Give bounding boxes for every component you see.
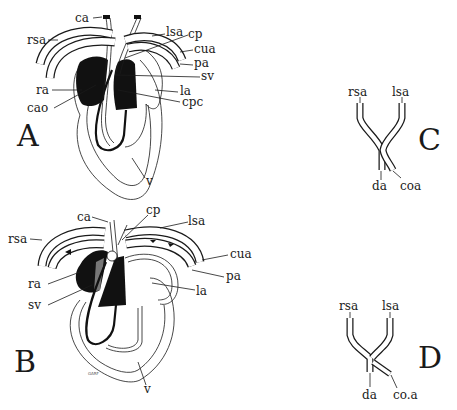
label-b-lsa: lsa bbox=[188, 214, 205, 228]
panel-letter-a: A bbox=[16, 118, 39, 153]
leader-b-ca bbox=[92, 217, 108, 222]
label-b-v: v bbox=[143, 382, 151, 396]
panel-letter-b: B bbox=[14, 344, 36, 379]
leader-c-coa bbox=[393, 171, 401, 178]
panel-b-u-tube-2 bbox=[106, 306, 142, 352]
leader-b-ra bbox=[48, 272, 80, 284]
label-d-coa: co.a bbox=[393, 388, 418, 402]
label-c-da: da bbox=[372, 179, 387, 193]
panel-a-cao bbox=[125, 104, 146, 147]
panel-a-ca-cap-right bbox=[103, 15, 110, 19]
label-a-lsa: lsa bbox=[166, 25, 183, 39]
leader-b-sv bbox=[48, 285, 92, 305]
label-c-coa: coa bbox=[400, 179, 421, 193]
panel-b-valve bbox=[107, 251, 117, 261]
label-d-rsa: rsa bbox=[339, 299, 358, 313]
panel-b-ventricle-inner bbox=[79, 302, 165, 372]
label-a-ra: ra bbox=[36, 83, 49, 97]
label-b-ca: ca bbox=[77, 210, 91, 224]
panel-d: rsa lsa da co.a D bbox=[339, 299, 442, 402]
label-c-rsa: rsa bbox=[348, 85, 367, 99]
label-a-rsa: rsa bbox=[27, 33, 46, 47]
panel-letter-c: C bbox=[418, 122, 441, 157]
artist-signature: GARF bbox=[88, 371, 100, 376]
label-a-v: v bbox=[145, 174, 153, 188]
leader-d-coa bbox=[391, 375, 397, 388]
panel-b: ca cp lsa rsa cua pa ra la sv v GARF B bbox=[8, 203, 252, 396]
panel-b-la-outline-inner bbox=[128, 259, 172, 300]
leader-b-la bbox=[152, 283, 195, 290]
label-d-lsa: lsa bbox=[382, 299, 399, 313]
label-b-cp: cp bbox=[146, 203, 161, 217]
leader-a-ca bbox=[93, 17, 102, 18]
label-a-cao: cao bbox=[27, 101, 48, 115]
leader-b-rsa bbox=[30, 239, 42, 240]
leader-a-v bbox=[132, 158, 145, 178]
panel-a: ca rsa lsa cp cua pa sv ra la cao cpc v … bbox=[16, 11, 216, 199]
panel-a-ca-cap-left bbox=[134, 15, 141, 19]
leader-b-pa bbox=[192, 270, 224, 277]
panel-letter-d: D bbox=[418, 340, 442, 375]
label-a-ca: ca bbox=[75, 11, 89, 25]
leader-a-pa bbox=[180, 64, 193, 65]
label-d-da: da bbox=[362, 388, 377, 402]
leader-b-cua bbox=[202, 255, 228, 260]
label-b-la: la bbox=[196, 284, 207, 298]
label-a-cpc: cpc bbox=[182, 95, 203, 109]
leader-b-lsa bbox=[160, 222, 188, 228]
label-a-pa: pa bbox=[194, 56, 209, 70]
label-a-sv: sv bbox=[201, 69, 214, 83]
label-b-sv: sv bbox=[28, 298, 41, 312]
label-b-pa: pa bbox=[226, 269, 241, 283]
label-b-rsa: rsa bbox=[8, 232, 27, 246]
panel-b-la-outline bbox=[125, 254, 178, 304]
label-b-cua: cua bbox=[230, 247, 252, 261]
panel-c: rsa lsa da coa C bbox=[348, 85, 441, 193]
label-a-cua: cua bbox=[194, 42, 216, 56]
label-b-ra: ra bbox=[28, 277, 41, 291]
label-a-cp: cp bbox=[188, 27, 203, 41]
figure-canvas: ca rsa lsa cp cua pa sv ra la cao cpc v … bbox=[0, 0, 457, 410]
label-c-lsa: lsa bbox=[392, 85, 409, 99]
